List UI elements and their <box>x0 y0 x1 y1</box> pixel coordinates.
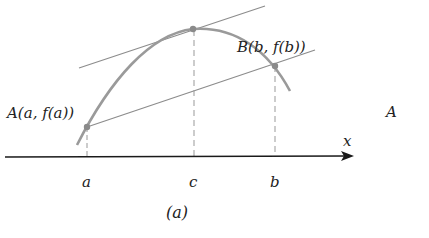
tick-label-b: b <box>270 173 280 191</box>
tick-label-c: c <box>189 173 198 191</box>
secant-line <box>87 50 315 127</box>
point-c <box>190 26 196 32</box>
point-b-label: B(b, f(b)) <box>236 38 306 56</box>
tick-label-a: a <box>82 173 91 191</box>
figure-caption: (a) <box>166 203 188 222</box>
x-axis-label: x <box>343 132 352 150</box>
cropped-label: A <box>384 103 397 121</box>
mean-value-theorem-diagram: A(a, f(a)) B(b, f(b)) x a c b (a) A <box>0 0 429 238</box>
point-a-label: A(a, f(a)) <box>5 104 74 122</box>
point-a <box>84 124 90 130</box>
x-axis <box>5 156 345 157</box>
point-b <box>272 63 278 69</box>
